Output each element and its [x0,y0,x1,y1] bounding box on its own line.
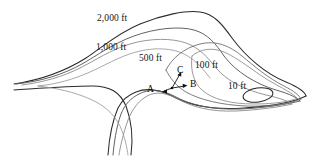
contour-label-2000: 2,000 ft [97,14,127,24]
point-label-b: B [190,80,196,90]
contour-group-100 [166,43,301,106]
contour-line-500-ridge [119,93,292,155]
contour-label-500: 500 ft [139,54,162,64]
contour-label-10: 10 ft [228,82,246,92]
point-label-c: C [177,66,183,76]
contour-map-figure: 2,000 ft 1,000 ft 500 ft 100 ft 10 ft A … [0,0,314,159]
vertex-point [171,87,174,90]
contour-line-inner-lobe-upper [38,49,210,86]
arrow-head-b-icon [183,84,188,88]
contour-group-2000 [14,12,306,155]
contour-group-1000 [16,28,300,155]
contour-map-canvas [0,0,314,159]
contour-label-1000: 1,000 ft [96,43,126,53]
contour-line-2000-ridge [108,90,306,155]
contour-label-100: 100 ft [195,61,218,71]
point-label-a: A [147,85,154,95]
